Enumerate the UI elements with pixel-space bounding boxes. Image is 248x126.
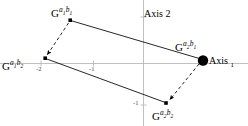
point-label-a2b2-superscript: a2b2 [160,108,173,117]
point-marker-a1b1[interactable] [68,18,72,22]
dashed-arrow-a2b1-to-a2b2 [170,64,199,100]
point-label-a1b1-b-index: 1 [70,10,73,16]
y-tick-label-minus1: -1 [133,100,138,107]
point-label-a1b2-b-index: 2 [21,63,24,69]
point-label-a2b2-b-index: 2 [171,113,174,119]
connector-a1b2-to-a2b2 [46,59,165,103]
point-label-a2b2: Ga2b2 [152,109,173,122]
point-label-a2b2-base: G [152,110,160,122]
x-tick-label-minus2: -2 [36,66,41,73]
point-label-a1b2: Ga1b2 [2,59,23,72]
point-label-a1b1-superscript: a1b1 [59,5,72,14]
point-marker-a1b2[interactable] [43,56,47,60]
point-label-a1b1: Ga1b1 [51,6,72,19]
y-axis-label-index: 2 [165,8,170,19]
point-label-a1b2-superscript: a1b2 [10,58,23,67]
x-axis-label-text: Axis [209,55,230,66]
interaction-plot-figure: Ga1b1 Ga1b2 Ga2b1 Ga2b2 Axis 2 Axis 1 -2… [0,0,248,126]
point-marker-a2b2[interactable] [164,101,168,105]
y-axis-label-text: Axis [144,8,165,19]
x-tick-label-minus1: -1 [89,66,94,73]
point-label-a2b1-base: G [175,41,183,53]
x-axis-label-index: 1 [230,61,234,69]
dashed-arrow-a1b1-to-a1b2 [48,23,69,55]
y-axis-label: Axis 2 [144,9,170,19]
point-label-a2b1: Ga2b1 [175,40,196,53]
point-label-a1b1-base: G [51,7,59,19]
point-label-a2b1-b-index: 1 [194,44,197,50]
point-label-a1b2-base: G [2,60,10,72]
point-label-a2b1-superscript: a2b1 [183,39,196,48]
point-marker-a2b1[interactable] [198,55,208,65]
x-axis-label: Axis 1 [209,56,234,69]
